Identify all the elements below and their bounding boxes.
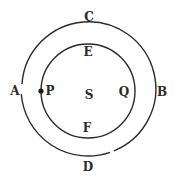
label-c: C (84, 10, 94, 24)
label-s: S (85, 88, 94, 102)
outer-circle-lower-arc (21, 94, 110, 156)
label-p: P (45, 84, 54, 98)
label-e: E (83, 45, 92, 59)
label-b: B (157, 85, 167, 99)
label-a: A (9, 84, 20, 98)
label-d: D (83, 160, 93, 174)
label-q: Q (119, 85, 129, 99)
point-p-marker (38, 88, 43, 93)
label-f: F (83, 121, 92, 135)
diagram-canvas: C E A P S Q B F D (0, 0, 174, 182)
